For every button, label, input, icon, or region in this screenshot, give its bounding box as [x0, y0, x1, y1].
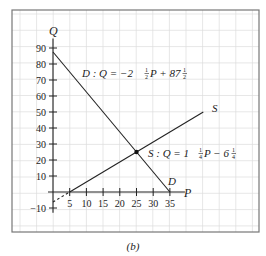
x-tick-label: 25 [132, 198, 142, 209]
d-frac-den: 2 [145, 74, 148, 80]
s-frac-num: 1 [199, 147, 202, 153]
x-tick-label: 35 [165, 198, 175, 209]
demand-curve-label: D [167, 175, 176, 187]
svg-text:P + 87: P + 87 [149, 67, 181, 79]
y-tick-label: 30 [36, 139, 46, 150]
s-frac-den: 4 [199, 154, 202, 160]
y-tick-label: 10 [36, 171, 46, 182]
p-axis-label: P [183, 186, 192, 200]
y-tick-label: 20 [36, 155, 46, 166]
y-tick-label: 80 [36, 59, 46, 70]
s-frac2-num: 1 [232, 147, 235, 153]
axes [48, 38, 185, 212]
s-frac2-den: 4 [232, 154, 235, 160]
demand-eq-mid: P + 87 [149, 67, 181, 79]
x-tick-label: 30 [148, 198, 158, 209]
y-tick-label: 70 [36, 75, 46, 86]
figure-caption: (b) [127, 240, 140, 253]
supply-equation: S : Q = 1 1 4 P − 6 1 4 [148, 147, 236, 160]
supply-eq-prefix: S : Q = 1 [148, 147, 189, 159]
supply-eq-mid: P − 6 [203, 147, 229, 159]
y-tick-label: 50 [36, 107, 46, 118]
demand-equation: D : Q = −2 1 2 P + 87 1 2 [81, 67, 187, 80]
d-frac2-den: 2 [183, 74, 186, 80]
demand-eq-prefix: D : Q = −2 [81, 67, 133, 79]
supply-demand-chart: 5101520253035−10102030405060708090 Q P D… [0, 0, 266, 256]
x-tick-label: 5 [67, 198, 72, 209]
y-tick-label: 60 [36, 91, 46, 102]
svg-text:S : Q = 1: S : Q = 1 [148, 147, 189, 159]
y-tick-label: −10 [30, 203, 46, 214]
equilibrium-point [134, 150, 138, 154]
svg-text:P − 6: P − 6 [203, 147, 229, 159]
x-tick-label: 15 [98, 198, 108, 209]
q-axis-label: Q [49, 24, 58, 38]
d-frac2-num: 1 [183, 67, 186, 73]
supply-curve-label: S [212, 102, 218, 114]
y-tick-label: 90 [36, 43, 46, 54]
y-tick-label: 40 [36, 123, 46, 134]
x-tick-label: 10 [81, 198, 91, 209]
svg-text:D : Q = −2: D : Q = −2 [81, 67, 133, 79]
d-frac-num: 1 [145, 67, 148, 73]
x-tick-label: 20 [115, 198, 125, 209]
